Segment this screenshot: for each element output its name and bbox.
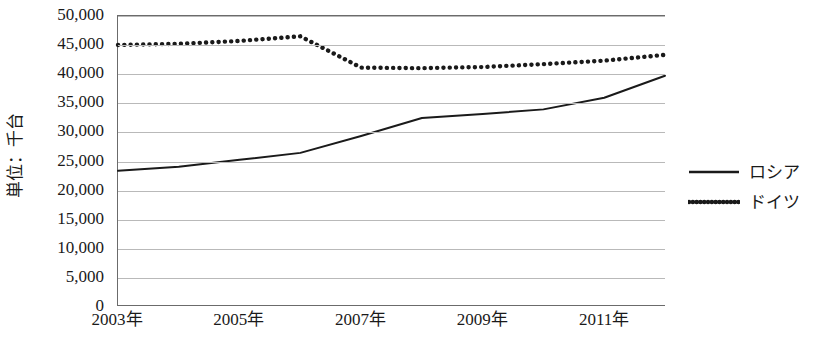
gridline <box>118 162 665 163</box>
legend-item[interactable]: ドイツ <box>688 185 828 215</box>
x-axis-tick-label: 2005年 <box>213 310 264 330</box>
x-axis-tick-label: 2009年 <box>457 310 508 330</box>
plot-area <box>117 15 665 306</box>
y-axis-tick-label: 35,000 <box>57 93 104 110</box>
gridline <box>118 191 665 192</box>
y-axis-tick-label: 5,000 <box>66 268 104 285</box>
x-axis-tick-label: 2011年 <box>579 310 629 330</box>
plot-inner <box>118 16 665 306</box>
y-axis-tick-label: 45,000 <box>57 35 104 52</box>
gridline <box>118 132 665 133</box>
y-axis-title-text: 単位：千台 <box>1 113 26 198</box>
y-axis-tick-label: 15,000 <box>57 210 104 227</box>
line-chart: 単位：千台 05,00010,00015,00020,00025,00030,0… <box>0 0 828 344</box>
gridline <box>118 74 665 75</box>
y-axis-tick-label: 25,000 <box>57 152 104 169</box>
x-axis-tick-label: 2003年 <box>92 310 143 330</box>
chart-legend: ロシアドイツ <box>688 155 828 215</box>
x-axis-line <box>118 305 665 306</box>
series-line <box>118 36 665 68</box>
legend-item[interactable]: ロシア <box>688 155 828 185</box>
y-axis-title: 単位：千台 <box>0 90 26 220</box>
legend-label: ドイツ <box>749 188 800 213</box>
y-axis-tick-label: 30,000 <box>57 122 104 139</box>
y-axis-tick-label: 20,000 <box>57 181 104 198</box>
legend-label: ロシア <box>749 158 800 183</box>
gridline <box>118 249 665 250</box>
x-axis-tick-label: 2007年 <box>335 310 386 330</box>
dotted-line-icon <box>688 194 740 206</box>
solid-line-icon <box>688 164 740 176</box>
y-axis-tick-label: 10,000 <box>57 239 104 256</box>
gridline <box>118 103 665 104</box>
y-axis-tick-label: 40,000 <box>57 64 104 81</box>
x-axis-tick-labels: 2003年2005年2007年2009年2011年 <box>117 310 665 340</box>
gridline <box>118 16 665 17</box>
series-line <box>118 76 665 171</box>
gridline <box>118 45 665 46</box>
y-axis-tick-label: 50,000 <box>57 6 104 23</box>
gridline <box>118 220 665 221</box>
y-axis-tick-labels: 05,00010,00015,00020,00025,00030,00035,0… <box>26 0 110 344</box>
gridline <box>118 278 665 279</box>
